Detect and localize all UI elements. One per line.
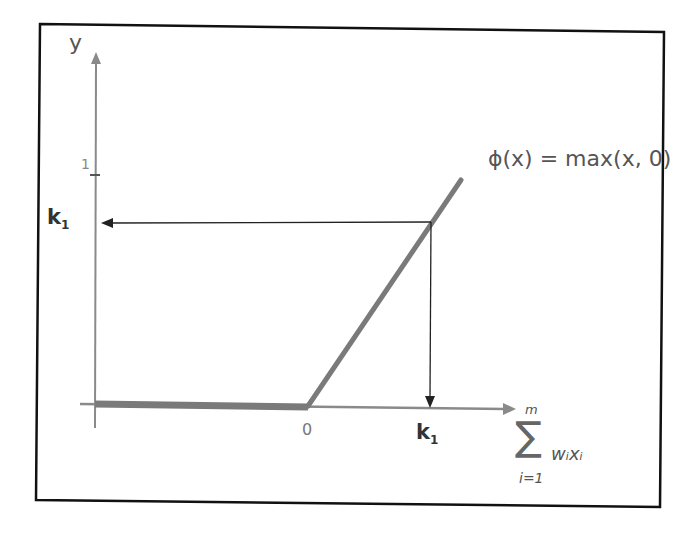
y-axis [95, 62, 96, 428]
y-tick-label: 1 [81, 156, 90, 172]
k1-x-subscript: 1 [430, 433, 438, 447]
y-axis-arrowhead [91, 52, 101, 64]
frame-border [36, 24, 664, 507]
function-label: ϕ(x) = max(x, 0) [488, 146, 671, 171]
k1-y-subscript: 1 [61, 218, 69, 232]
relu-slope-segment [308, 180, 461, 406]
origin-label: 0 [302, 420, 312, 439]
k1-x-label: k1 [416, 420, 438, 447]
sum-term: wᵢxᵢ [551, 443, 583, 464]
k1-vertical-line [430, 222, 431, 398]
relu-flat-segment [95, 404, 308, 407]
k1-y-label: k1 [47, 205, 69, 232]
sum-symbol: ∑ [515, 413, 542, 459]
k1-horizontal-line [110, 222, 431, 223]
diagram-canvas [0, 0, 698, 538]
sum-lower-limit: i=1 [519, 470, 544, 486]
y-axis-label: y [69, 30, 82, 55]
k1-y-text: k [47, 205, 61, 229]
k1-x-text: k [416, 420, 430, 444]
k1-horizontal-arrowhead [101, 218, 113, 228]
k1-vertical-arrowhead [425, 396, 435, 408]
